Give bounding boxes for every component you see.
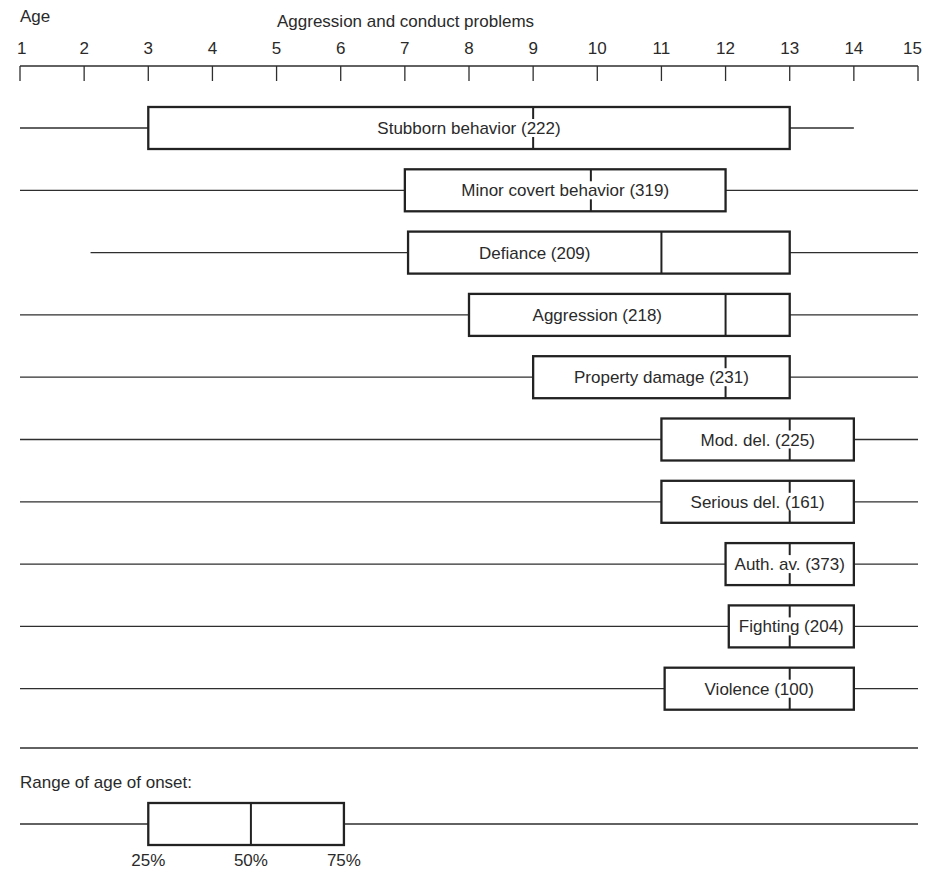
x-tick-label: 11 bbox=[653, 39, 671, 58]
iqr-box bbox=[408, 232, 790, 274]
age-of-onset-chart: Age Aggression and conduct problems 1234… bbox=[0, 0, 938, 892]
x-tick-label: 2 bbox=[79, 39, 88, 58]
legend-percent-label: 50% bbox=[234, 851, 268, 870]
x-tick-label: 1 bbox=[17, 39, 26, 58]
x-tick-label: 4 bbox=[208, 39, 217, 58]
legend-title: Range of age of onset: bbox=[20, 773, 192, 792]
box-label: Mod. del. (225) bbox=[700, 431, 814, 450]
x-axis: 123456789101112131415 bbox=[17, 39, 922, 81]
x-tick-label: 10 bbox=[588, 39, 607, 58]
box-row: Violence (100) bbox=[20, 668, 918, 710]
x-tick-label: 8 bbox=[464, 39, 473, 58]
box-label: Minor covert behavior (319) bbox=[461, 181, 669, 200]
box-row: Auth. av. (373) bbox=[20, 543, 918, 585]
box-label: Aggression (218) bbox=[533, 306, 662, 325]
legend-percent-label: 25% bbox=[131, 851, 165, 870]
x-axis-label: Age bbox=[20, 7, 50, 26]
box-row: Property damage (231) bbox=[20, 356, 918, 398]
x-tick-label: 7 bbox=[400, 39, 409, 58]
legend-box bbox=[148, 803, 344, 845]
chart-title: Aggression and conduct problems bbox=[277, 12, 534, 31]
x-tick-label: 15 bbox=[903, 39, 922, 58]
legend-percent-label: 75% bbox=[327, 851, 361, 870]
x-tick-label: 12 bbox=[716, 39, 735, 58]
x-tick-label: 13 bbox=[780, 39, 799, 58]
box-label: Property damage (231) bbox=[574, 368, 749, 387]
x-tick-label: 14 bbox=[844, 39, 863, 58]
box-label: Violence (100) bbox=[705, 680, 814, 699]
box-label: Stubborn behavior (222) bbox=[377, 119, 560, 138]
box-label: Fighting (204) bbox=[739, 617, 844, 636]
box-row: Minor covert behavior (319) bbox=[20, 169, 918, 211]
x-tick-label: 6 bbox=[336, 39, 345, 58]
box-row: Stubborn behavior (222) bbox=[20, 107, 854, 149]
box-label: Defiance (209) bbox=[479, 244, 591, 263]
x-tick-label: 9 bbox=[528, 39, 537, 58]
legend-example: 25%50%75% bbox=[20, 803, 918, 870]
box-row: Defiance (209) bbox=[91, 232, 918, 274]
x-tick-label: 3 bbox=[144, 39, 153, 58]
box-row: Mod. del. (225) bbox=[20, 419, 918, 461]
x-tick-label: 5 bbox=[272, 39, 281, 58]
box-row: Fighting (204) bbox=[20, 605, 918, 647]
box-label: Serious del. (161) bbox=[691, 493, 825, 512]
box-rows: Stubborn behavior (222)Minor covert beha… bbox=[20, 107, 918, 710]
box-row: Serious del. (161) bbox=[20, 481, 918, 523]
box-label: Auth. av. (373) bbox=[735, 555, 845, 574]
box-row: Aggression (218) bbox=[20, 294, 918, 336]
